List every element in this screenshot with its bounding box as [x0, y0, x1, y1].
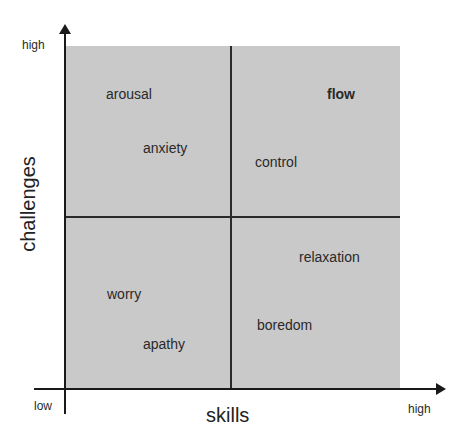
horizontal-divider	[66, 216, 400, 218]
arrow-right-icon	[436, 383, 446, 395]
y-axis-line	[64, 30, 66, 414]
label-worry: worry	[107, 286, 141, 302]
label-anxiety: anxiety	[143, 140, 187, 156]
flow-model-diagram: high low high challenges skills arousal …	[0, 0, 471, 444]
label-relaxation: relaxation	[299, 249, 360, 265]
x-axis-high-label: high	[408, 402, 431, 416]
x-axis-low-label: low	[34, 399, 52, 413]
y-axis-high-label: high	[22, 38, 45, 52]
label-flow: flow	[327, 86, 355, 102]
x-axis-line	[34, 388, 440, 390]
label-apathy: apathy	[143, 336, 185, 352]
label-control: control	[255, 154, 297, 170]
label-boredom: boredom	[257, 317, 312, 333]
arrow-up-icon	[59, 24, 71, 34]
x-axis-title: skills	[206, 404, 249, 427]
y-axis-title: challenges	[17, 156, 40, 252]
label-arousal: arousal	[106, 86, 152, 102]
